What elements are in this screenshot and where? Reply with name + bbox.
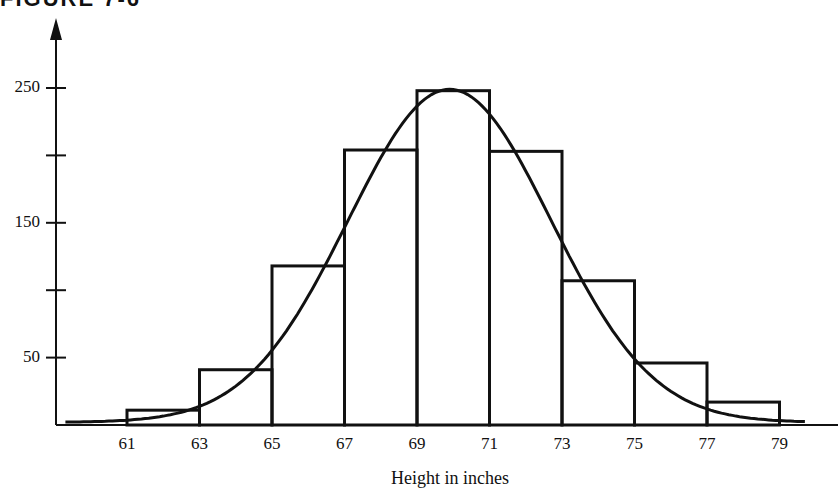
- histogram-bar: [562, 281, 635, 425]
- x-tick-label: 61: [107, 434, 147, 454]
- x-tick-label: 69: [397, 434, 437, 454]
- x-tick-label: 75: [615, 434, 655, 454]
- histogram-bars: [127, 91, 780, 425]
- y-tick-label: 250: [0, 77, 40, 97]
- histogram-bar: [345, 150, 418, 425]
- histogram-bar: [490, 151, 563, 425]
- x-tick-label: 63: [180, 434, 220, 454]
- x-tick-label: 77: [687, 434, 727, 454]
- y-tick-label: 50: [0, 347, 40, 367]
- normal-curve: [65, 89, 805, 422]
- histogram-bar: [417, 91, 490, 425]
- x-tick-label: 79: [760, 434, 800, 454]
- x-tick-label: 73: [542, 434, 582, 454]
- x-tick-label: 71: [470, 434, 510, 454]
- x-tick-label: 65: [252, 434, 292, 454]
- histogram-chart: [0, 0, 838, 500]
- x-axis-label: Height in inches: [300, 468, 600, 489]
- axes: [50, 18, 838, 425]
- histogram-bar: [272, 266, 345, 425]
- y-axis-arrow-icon: [50, 18, 62, 40]
- y-tick-label: 150: [0, 212, 40, 232]
- x-tick-label: 67: [325, 434, 365, 454]
- histogram-bar: [200, 370, 273, 425]
